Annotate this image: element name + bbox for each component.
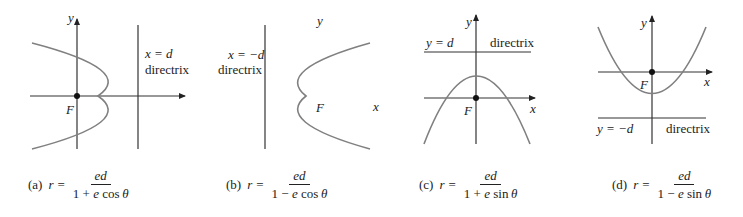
panel-c-tag: (c)	[419, 177, 433, 193]
panel-d-equals: =	[642, 177, 649, 193]
panel-c-equals: =	[449, 177, 456, 193]
panel-c-y-label: y	[464, 14, 472, 29]
panel-b-y-label: y	[315, 13, 323, 28]
panel-b-caption: (b) r = ed 1 − e cos θ	[226, 168, 331, 202]
panel-b-graph: y F x x = −d directrix	[218, 13, 379, 149]
panel-a-lhs: r	[48, 177, 53, 193]
panel-a-denominator: 1 + e cos θ	[69, 185, 133, 202]
panel-b-denominator: 1 − e cos θ	[268, 185, 332, 202]
panel-c-focus-label: F	[463, 103, 473, 118]
panel-a-equals: =	[58, 177, 65, 193]
panel-c-directrix-label: directrix	[490, 35, 535, 50]
panel-c-directrix-eq: y = d	[424, 35, 454, 50]
panel-b-focus-label: F	[315, 100, 325, 115]
panel-a-directrix-label: directrix	[145, 62, 190, 77]
panel-a-focus-point	[74, 93, 80, 99]
panel-b-fraction: ed 1 − e cos θ	[268, 168, 332, 202]
panel-c-fraction: ed 1 + e sin θ	[460, 168, 522, 202]
panel-a-graph: y F x = d directrix	[30, 10, 190, 149]
panel-d-y-label: y	[639, 15, 647, 30]
panel-d-caption: (d) r = ed 1 − e sin θ	[612, 168, 715, 202]
panel-b-tag: (b)	[226, 177, 241, 193]
panel-a-caption: (a) r = ed 1 + e cos θ	[28, 168, 133, 202]
panel-c-parabola	[424, 76, 530, 144]
panel-c-caption: (c) r = ed 1 + e sin θ	[419, 168, 521, 202]
panel-d-lhs: r	[633, 177, 638, 193]
panel-b-directrix-label: directrix	[218, 62, 263, 77]
panel-d-denominator: 1 − e sin θ	[654, 185, 716, 202]
panel-c-denominator: 1 + e sin θ	[460, 185, 522, 202]
panel-d-x-label: x	[703, 74, 710, 89]
panel-b-numerator: ed	[289, 168, 309, 185]
panel-b-parabola	[298, 43, 370, 149]
panel-b-equals: =	[256, 177, 263, 193]
panel-b-lhs: r	[247, 177, 252, 193]
panel-c-lhs: r	[439, 177, 444, 193]
panel-c-x-label: x	[529, 101, 536, 116]
panel-a-focus-label: F	[65, 102, 75, 117]
panel-d-focus-label: F	[639, 77, 649, 92]
panel-d-numerator: ed	[674, 168, 694, 185]
panel-a-y-label: y	[66, 10, 74, 25]
panel-c-numerator: ed	[480, 168, 500, 185]
panel-b-directrix-eq: x = −d	[227, 47, 265, 62]
panel-a-directrix-eq: x = d	[144, 46, 173, 61]
panel-c-focus-point	[473, 95, 479, 101]
panel-d-directrix-eq: y = −d	[595, 121, 634, 136]
panel-d-graph: y F x y = −d directrix	[595, 15, 712, 144]
panel-a-fraction: ed 1 + e cos θ	[69, 168, 133, 202]
panel-a-numerator: ed	[91, 168, 111, 185]
panel-d-directrix-label: directrix	[666, 121, 711, 136]
panel-d-fraction: ed 1 − e sin θ	[654, 168, 716, 202]
panel-d-tag: (d)	[612, 177, 627, 193]
panel-c-graph: y F x y = d directrix	[424, 14, 536, 144]
panel-b-x-label: x	[372, 99, 379, 114]
panel-a-tag: (a)	[28, 177, 42, 193]
panel-d-focus-point	[649, 69, 655, 75]
